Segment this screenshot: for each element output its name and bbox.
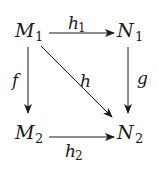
edge-h1: h 1 bbox=[49, 13, 114, 35]
node-n1: N 1 bbox=[116, 19, 143, 44]
svg-text:2: 2 bbox=[35, 131, 43, 146]
node-n2: N 2 bbox=[116, 121, 143, 146]
svg-text:N: N bbox=[116, 19, 135, 41]
edge-h: h bbox=[41, 46, 112, 117]
svg-text:g: g bbox=[137, 68, 148, 88]
node-m2: M 2 bbox=[14, 121, 43, 146]
arrow-h bbox=[41, 46, 112, 117]
svg-text:2: 2 bbox=[135, 131, 143, 146]
svg-text:f: f bbox=[10, 70, 21, 90]
svg-text:1: 1 bbox=[135, 29, 143, 44]
edge-f: f bbox=[10, 47, 28, 113]
commutative-diagram: M 1 N 1 M 2 N 2 h 1 f h g h 2 bbox=[0, 0, 158, 169]
svg-text:h: h bbox=[80, 71, 91, 91]
edge-h2: h 2 bbox=[49, 137, 114, 163]
svg-text:M: M bbox=[14, 19, 35, 41]
svg-text:M: M bbox=[14, 121, 35, 143]
edge-g: g bbox=[128, 47, 148, 113]
svg-text:2: 2 bbox=[75, 149, 83, 163]
svg-text:1: 1 bbox=[35, 29, 43, 44]
svg-text:1: 1 bbox=[78, 21, 86, 35]
node-m1: M 1 bbox=[14, 19, 43, 44]
svg-text:N: N bbox=[116, 121, 135, 143]
